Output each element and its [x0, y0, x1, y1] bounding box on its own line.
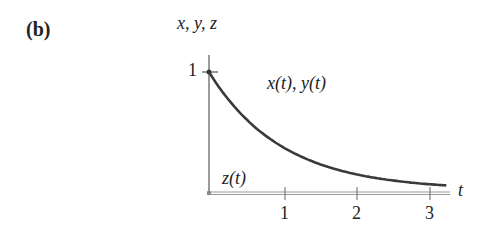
plot-area [0, 0, 485, 230]
origin-point [207, 191, 211, 195]
xy-curve [209, 72, 446, 185]
